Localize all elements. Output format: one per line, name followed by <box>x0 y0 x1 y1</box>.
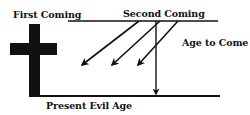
two-ages-diagram: First Coming Second Coming Age to Come P… <box>0 0 250 115</box>
first-coming-label: First Coming <box>13 10 81 20</box>
diagonal-arrow-1 <box>82 21 139 65</box>
diagonal-arrow-3 <box>138 21 178 65</box>
second-coming-label: Second Coming <box>123 9 205 19</box>
cross-icon <box>10 24 57 95</box>
age-to-come-label: Age to Come <box>182 38 248 48</box>
diagonal-arrow-2 <box>112 21 160 65</box>
present-evil-age-label: Present Evil Age <box>46 101 132 111</box>
